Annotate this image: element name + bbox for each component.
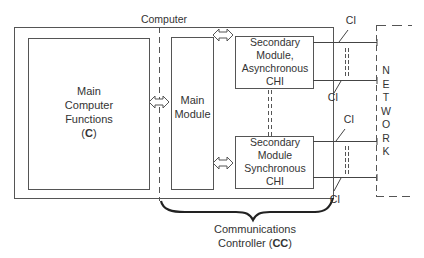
network-label: N E T W O R K [380,64,392,159]
controller-line1: Communications [195,222,315,236]
module-link-dashed [269,90,272,136]
network-letter: O [380,118,392,132]
ci-link-dashed [346,48,349,174]
secondary-sync-line2: Module [236,149,314,162]
controller-label: Communications Controller (CC) [195,222,315,250]
network-letter: W [380,105,392,119]
ci-label-sync-top: CI [341,113,357,126]
main-functions-abbr: (C) [29,126,149,140]
ci-label-async-top: CI [343,14,359,27]
main-module-line2: Module [172,107,213,121]
secondary-async-label: Secondary Module, Asynchronous CHI [236,36,314,88]
controller-line2: Controller (CC) [195,236,315,250]
main-functions-line1: Main [29,84,149,98]
secondary-sync-label: Secondary Module Synchronous CHI [236,136,314,188]
network-letter: K [380,145,392,159]
main-functions-line2: Computer [29,98,149,112]
computer-label: Computer [139,13,189,26]
network-letter: T [380,91,392,105]
secondary-async-line4: CHI [236,75,314,88]
network-letter: E [380,78,392,92]
secondary-sync-line3: Synchronous [236,162,314,175]
secondary-async-line2: Module, [236,49,314,62]
secondary-sync-line4: CHI [236,175,314,188]
main-functions-line3: Functions [29,112,149,126]
controller-brace [161,198,333,220]
secondary-async-line3: Asynchronous [236,62,314,75]
secondary-async-line1: Secondary [236,36,314,49]
main-module-label: Main Module [172,93,213,121]
network-letter: R [380,132,392,146]
ci-label-sync-bottom: CI [327,193,343,206]
main-module-line1: Main [172,93,213,107]
network-letter: N [380,64,392,78]
secondary-sync-line1: Secondary [236,136,314,149]
main-functions-label: Main Computer Functions (C) [29,84,149,140]
ci-label-async-bottom: CI [325,91,341,104]
